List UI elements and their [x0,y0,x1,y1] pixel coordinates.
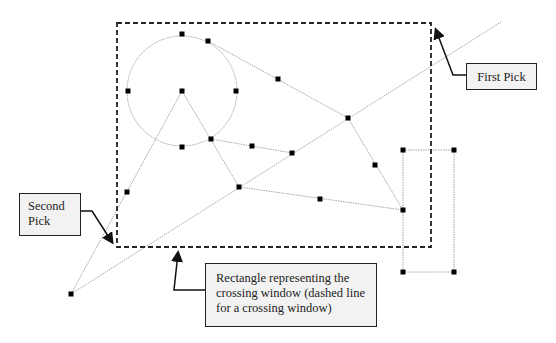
grip-square-icon [69,292,74,297]
grip-square-icon [180,32,185,37]
grip-square-icon [401,270,406,275]
small-rectangle-entity [403,150,454,272]
geometry-lines [71,22,501,294]
grip-square-icon [126,89,131,94]
grip-square-icon [206,39,211,44]
grip-square-icon [373,163,378,168]
grip-square-icon [250,144,255,149]
grip-square-icon [237,185,242,190]
grip-square-icon [180,145,185,150]
grip-square-icon [401,208,406,213]
grip-square-icon [452,148,457,153]
grip-square-icon [180,89,185,94]
rectangle-arrow-icon [174,253,205,290]
crossing-window-callout: Rectangle representing the crossing wind… [205,263,377,327]
second-pick-callout: Second Pick [19,193,81,236]
grip-square-icon [318,197,323,202]
grip-square-icon [452,270,457,275]
grip-points [69,32,457,297]
grip-square-icon [209,137,214,142]
first-pick-callout: First Pick [466,63,537,90]
line-entity [71,22,501,294]
grip-square-icon [125,190,130,195]
grip-square-icon [234,89,239,94]
grip-square-icon [290,151,295,156]
grip-square-icon [276,77,281,82]
grip-square-icon [346,116,351,121]
grip-square-icon [401,148,406,153]
first-pick-arrow-icon [436,30,466,75]
crossing-window-rectangle [117,23,431,247]
second-pick-arrow-icon [81,211,112,242]
